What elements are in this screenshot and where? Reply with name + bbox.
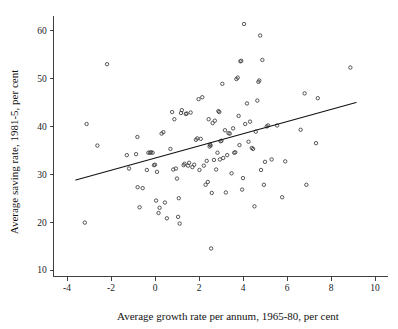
- data-point: [303, 92, 306, 95]
- data-point: [256, 99, 259, 102]
- data-point: [230, 172, 233, 175]
- data-point: [263, 160, 266, 163]
- data-point: [248, 120, 251, 123]
- data-point: [169, 147, 172, 150]
- data-point: [202, 164, 205, 167]
- regression-line: [76, 102, 356, 180]
- data-point: [231, 127, 234, 130]
- data-point: [177, 197, 180, 200]
- data-point: [170, 110, 173, 113]
- data-point: [141, 186, 144, 189]
- data-point: [242, 22, 245, 25]
- data-point: [314, 141, 317, 144]
- data-point: [134, 152, 137, 155]
- x-axis-title: Average growth rate per annum, 1965-80, …: [117, 310, 339, 322]
- x-tick-label: 8: [329, 283, 334, 293]
- data-point: [173, 118, 176, 121]
- data-point: [316, 96, 319, 99]
- data-point: [175, 177, 178, 180]
- data-point: [207, 118, 210, 121]
- data-point: [284, 160, 287, 163]
- data-point: [253, 205, 256, 208]
- y-tick-label: 60: [37, 26, 47, 36]
- data-point: [240, 188, 243, 191]
- data-point: [138, 206, 141, 209]
- data-point: [197, 97, 200, 100]
- data-point: [199, 137, 202, 140]
- data-point: [216, 151, 219, 154]
- x-tick-label: -4: [63, 283, 71, 293]
- data-point: [145, 168, 148, 171]
- data-point: [259, 168, 262, 171]
- x-tick-label: 0: [153, 283, 158, 293]
- data-point: [154, 199, 157, 202]
- data-point: [127, 167, 130, 170]
- data-point: [223, 129, 226, 132]
- data-point: [222, 156, 225, 159]
- data-point: [163, 201, 166, 204]
- data-point: [238, 143, 241, 146]
- data-point: [305, 183, 308, 186]
- data-point: [224, 191, 227, 194]
- y-tick-label: 10: [37, 265, 47, 275]
- data-point: [201, 96, 204, 99]
- x-tick-label: 2: [197, 283, 202, 293]
- data-point: [270, 158, 273, 161]
- x-axis-ticks: -4-20246810: [63, 277, 380, 293]
- data-point: [245, 102, 248, 105]
- data-point: [96, 144, 99, 147]
- data-point: [158, 206, 161, 209]
- data-point: [176, 215, 179, 218]
- data-point: [165, 217, 168, 220]
- plot-canvas: 102030405060 -4-20246810 Average growth …: [0, 0, 398, 329]
- y-tick-label: 50: [37, 74, 47, 84]
- y-axis-ticks: 102030405060: [37, 26, 54, 275]
- data-point: [189, 111, 192, 114]
- plot-axes: [54, 16, 388, 276]
- y-axis-title: Average saving rate, 1981-5, per cent: [8, 70, 20, 234]
- data-point: [105, 63, 108, 66]
- data-point: [198, 168, 201, 171]
- y-tick-label: 30: [37, 170, 47, 180]
- data-point: [299, 128, 302, 131]
- data-point: [155, 170, 158, 173]
- x-tick-label: -2: [107, 283, 115, 293]
- data-point: [205, 159, 208, 162]
- data-point: [178, 222, 181, 225]
- data-point: [213, 119, 216, 122]
- data-point: [210, 191, 213, 194]
- data-point: [221, 82, 224, 85]
- data-point: [136, 135, 139, 138]
- data-point: [262, 183, 265, 186]
- data-point: [206, 180, 209, 183]
- data-point: [244, 122, 247, 125]
- data-point: [136, 186, 139, 189]
- data-point: [241, 176, 244, 179]
- data-point: [85, 122, 88, 125]
- x-tick-label: 10: [370, 283, 380, 293]
- data-point: [157, 211, 160, 214]
- data-points: [83, 22, 352, 250]
- data-point: [125, 153, 128, 156]
- y-tick-label: 40: [37, 122, 47, 132]
- data-point: [209, 247, 212, 250]
- y-tick-label: 20: [37, 218, 47, 228]
- linear-fit-line: [76, 102, 356, 180]
- data-point: [349, 66, 352, 69]
- data-point: [192, 163, 195, 166]
- data-point: [280, 196, 283, 199]
- x-tick-label: 4: [241, 283, 246, 293]
- data-point: [225, 153, 228, 156]
- data-point: [83, 221, 86, 224]
- data-point: [212, 158, 215, 161]
- data-point: [237, 114, 240, 117]
- x-tick-label: 6: [285, 283, 290, 293]
- data-point: [261, 58, 264, 61]
- data-point: [247, 140, 250, 143]
- data-point: [214, 168, 217, 171]
- scatter-plot-figure: 102030405060 -4-20246810 Average growth …: [0, 0, 398, 329]
- data-point: [258, 34, 261, 37]
